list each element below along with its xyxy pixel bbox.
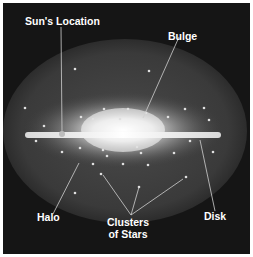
label-clusters-line1: Clusters — [107, 216, 149, 228]
label-disk: Disk — [204, 210, 226, 222]
label-bulge: Bulge — [168, 30, 197, 42]
label-clusters-of-stars: Clusters of Stars — [107, 216, 149, 240]
label-halo: Halo — [37, 211, 60, 223]
galactic-disk — [25, 132, 221, 138]
label-clusters-line2: of Stars — [107, 228, 149, 240]
galaxy-diagram: Sun's Location Bulge Halo Clusters of St… — [3, 3, 250, 254]
label-sun-location: Sun's Location — [25, 15, 100, 27]
sun-marker-icon — [59, 131, 65, 137]
